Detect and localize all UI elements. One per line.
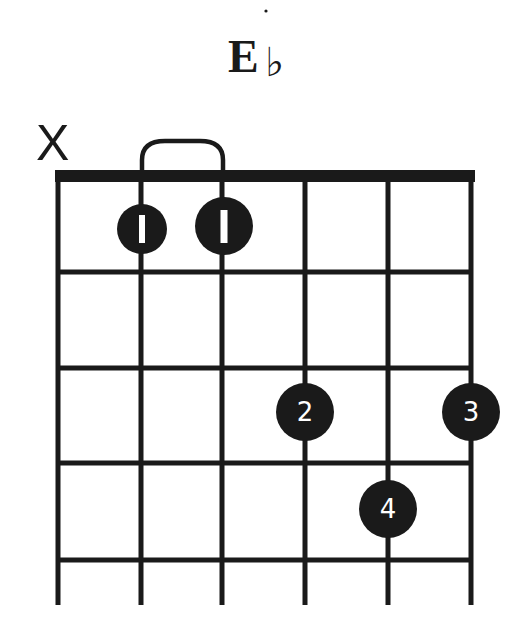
- chord-diagram: E ♭ X 1 1 2 3: [0, 0, 532, 642]
- finger-dot: 3: [442, 383, 500, 441]
- finger-dot: 1: [195, 197, 253, 255]
- finger-dot: 1: [117, 204, 167, 254]
- chord-name: E: [228, 31, 259, 82]
- finger-dot: 4: [359, 480, 417, 538]
- finger-dot: 2: [276, 383, 334, 441]
- finger-number: 3: [463, 397, 480, 427]
- finger-number: 2: [297, 397, 314, 427]
- speck: [264, 9, 267, 12]
- flat-symbol: ♭: [265, 39, 284, 85]
- nut: [55, 170, 475, 182]
- finger-number: 4: [380, 494, 397, 524]
- chord-title: E ♭: [228, 31, 284, 85]
- finger-number: 1: [216, 211, 233, 241]
- muted-string-marker: X: [36, 115, 69, 171]
- finger-number: 1: [134, 214, 151, 244]
